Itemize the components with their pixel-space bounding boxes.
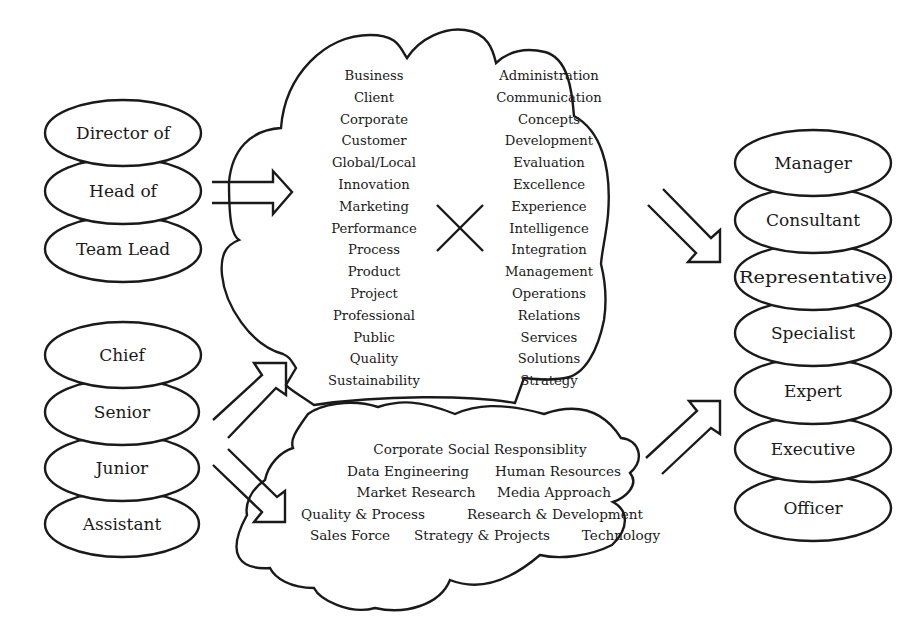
left-bottom-group: Chief Senior Junior Assistant (45, 322, 201, 557)
top-cloud-term: Management (505, 264, 594, 279)
top-cloud-term: Corporate (340, 112, 408, 127)
right-group: Manager Consultant Representative Specia… (735, 130, 891, 541)
top-cloud-term: Excellence (513, 177, 585, 192)
top-cloud-term: Evaluation (513, 155, 585, 170)
top-cloud-term: Integration (511, 242, 587, 257)
bottom-cloud-term: Sales Force (310, 527, 390, 543)
bottom-cloud-term: Quality & Process (301, 506, 425, 522)
arrow-up-right-icon (646, 401, 720, 474)
label-expert: Expert (784, 381, 842, 401)
job-title-diagram: Director of Head of Team Lead Chief Seni… (0, 0, 924, 644)
label-executive: Executive (771, 439, 855, 459)
bottom-cloud-term: Technology (582, 527, 661, 543)
top-cloud-term: Professional (333, 308, 415, 323)
top-cloud-term: Innovation (338, 177, 410, 192)
label-senior: Senior (94, 402, 151, 422)
bottom-cloud-term: Data Engineering (347, 463, 469, 479)
label-assistant: Assistant (82, 514, 162, 534)
label-representative: Representative (739, 267, 887, 287)
top-cloud-term: Concepts (518, 112, 580, 127)
top-cloud (222, 30, 609, 405)
top-cloud-term: Strategy (520, 373, 578, 388)
label-team-lead: Team Lead (76, 239, 170, 259)
left-top-group: Director of Head of Team Lead (45, 100, 201, 282)
label-chief: Chief (99, 345, 146, 365)
label-junior: Junior (94, 458, 149, 478)
top-cloud-term: Operations (512, 286, 586, 301)
top-cloud-term: Solutions (518, 351, 581, 366)
label-consultant: Consultant (766, 210, 860, 230)
bottom-cloud-term: Corporate Social Responsiblity (373, 441, 587, 457)
top-cloud-term: Relations (518, 308, 581, 323)
top-cloud-term: Business (344, 68, 403, 83)
label-head-of: Head of (89, 181, 159, 201)
bottom-cloud-term: Strategy & Projects (414, 527, 550, 543)
top-cloud-term: Process (348, 242, 400, 257)
top-cloud-term: Quality (350, 351, 399, 366)
top-cloud-term: Project (350, 286, 398, 301)
top-cloud-term: Intelligence (509, 221, 589, 236)
top-cloud-term: Client (354, 90, 395, 105)
arrow-up-right-icon (213, 363, 286, 438)
bottom-cloud-term: Research & Development (467, 506, 644, 522)
top-cloud-term: Services (521, 330, 578, 345)
bottom-cloud-term: Market Research (357, 484, 476, 500)
top-cloud-term: Global/Local (332, 155, 416, 170)
top-cloud-term: Development (505, 133, 594, 148)
bottom-cloud-term: Media Approach (497, 484, 611, 500)
label-manager: Manager (774, 153, 853, 173)
label-specialist: Specialist (771, 323, 855, 343)
top-cloud-term: Experience (511, 199, 587, 214)
top-cloud-term: Sustainability (328, 373, 420, 388)
label-officer: Officer (783, 498, 843, 518)
top-cloud-term: Customer (341, 133, 407, 148)
top-cloud-term: Public (353, 330, 395, 345)
top-cloud-term: Product (348, 264, 401, 279)
top-cloud-term: Administration (498, 68, 599, 83)
top-cloud-term: Communication (496, 90, 602, 105)
bottom-cloud-term: Human Resources (495, 463, 621, 479)
top-cloud-term: Marketing (339, 199, 409, 214)
top-cloud-term: Performance (331, 221, 417, 236)
label-director-of: Director of (76, 123, 172, 143)
arrow-down-right-icon (648, 189, 720, 262)
